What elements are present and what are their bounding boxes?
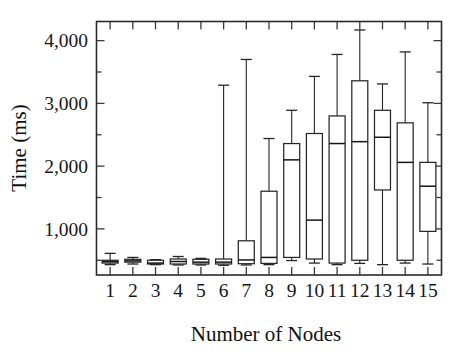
box-plot-12 [352, 30, 368, 263]
box-plot-15 [420, 103, 436, 264]
box-iqr [329, 116, 345, 263]
x-tick-label: 2 [128, 280, 138, 301]
x-tick-label: 12 [350, 280, 370, 301]
y-tick-label: 2,000 [44, 156, 88, 177]
x-tick-label: 4 [173, 280, 183, 301]
box-plot-3 [148, 260, 164, 265]
x-tick-label: 15 [418, 280, 438, 301]
x-tick-label: 1 [105, 280, 115, 301]
y-axis-title: Time (ms) [7, 104, 31, 191]
box-plot-6 [216, 85, 232, 265]
box-plot-1 [102, 253, 118, 264]
x-tick-label: 6 [219, 280, 229, 301]
box-iqr [420, 162, 436, 231]
x-axis-tick-labels: 123456789101112131415 [105, 280, 437, 301]
box-iqr [352, 81, 368, 260]
box-plot-9 [284, 110, 300, 260]
box-iqr [284, 144, 300, 258]
box-iqr [261, 191, 277, 263]
x-tick-label: 3 [151, 280, 161, 301]
box-plot-11 [329, 54, 345, 264]
y-axis-tick-labels: 1,0002,0003,0004,000 [44, 30, 88, 239]
x-tick-label: 5 [196, 280, 206, 301]
x-tick-label: 14 [395, 280, 415, 301]
x-axis-title: Number of Nodes [191, 322, 341, 346]
x-tick-label: 7 [241, 280, 251, 301]
box-plot-10 [306, 76, 322, 263]
box-plot-7 [238, 59, 254, 264]
y-tick-label: 4,000 [44, 30, 88, 51]
box-series [102, 30, 436, 265]
x-tick-label: 13 [373, 280, 393, 301]
box-plot-8 [261, 139, 277, 265]
box-iqr [397, 123, 413, 260]
box-iqr [374, 110, 390, 190]
y-tick-label: 1,000 [44, 219, 88, 240]
x-tick-label: 10 [305, 280, 325, 301]
box-plot-2 [125, 257, 141, 264]
x-tick-label: 9 [287, 280, 297, 301]
y-tick-label: 3,000 [44, 93, 88, 114]
box-plot-13 [374, 84, 390, 265]
box-plot-4 [170, 256, 186, 264]
x-tick-label: 11 [328, 280, 347, 301]
x-tick-label: 8 [264, 280, 274, 301]
boxplot-chart: 1,0002,0003,0004,000 1234567891011121314… [0, 0, 462, 364]
plot-canvas: 1,0002,0003,0004,000 1234567891011121314… [0, 0, 462, 364]
box-iqr [306, 134, 322, 259]
box-plot-14 [397, 52, 413, 263]
box-plot-5 [193, 258, 209, 265]
